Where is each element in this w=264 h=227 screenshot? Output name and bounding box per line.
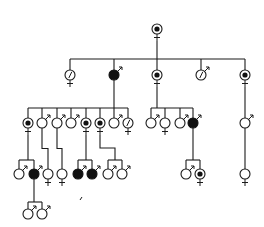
pedigree-node-female-carrier [23,118,33,135]
male-symbol-icon [197,115,202,120]
pedigree-node-female-carrier [152,70,162,87]
male-symbol-icon [23,166,28,171]
pedigree-node-male-unaffected [240,115,253,128]
pedigree-node-female-marked [65,70,75,87]
pedigree-node-male-unaffected [23,206,36,219]
carrier-dot-icon [197,171,202,176]
carrier-dot-icon [154,26,159,31]
male-symbol-icon [32,206,37,211]
pedigree-nodes [14,24,253,219]
male-symbol-icon [112,166,117,171]
male-symbol-icon [126,166,131,171]
open-circle-icon [160,118,170,128]
pedigree-node-female-unaffected [240,169,250,186]
pedigree-node-male-unaffected [109,115,122,128]
male-symbol-icon [82,166,87,171]
male-symbol-icon [190,166,195,171]
male-symbol-icon [38,166,43,171]
descent-line [42,128,48,169]
pedigree-node-male-unaffected [37,115,50,128]
pedigree-diagram [0,0,264,227]
pedigree-node-female-unaffected [57,169,67,186]
pedigree-node-male-affected [73,166,86,179]
pedigree-node-female-carrier [195,169,205,186]
male-symbol-icon [249,115,254,120]
pedigree-node-male-marked [196,67,209,80]
pedigree-node-male-unaffected [146,115,159,128]
pedigree-node-male-affected [109,67,122,80]
male-symbol-icon [155,115,160,120]
pedigree-node-male-affected [188,115,201,128]
carrier-dot-icon [83,120,88,125]
open-circle-icon [240,169,250,179]
male-symbol-icon [75,115,80,120]
carrier-dot-icon [242,72,247,77]
male-symbol-icon [118,67,123,72]
male-symbol-icon [46,206,51,211]
pedigree-node-female-unaffected [160,118,170,135]
pedigree-node-male-unaffected [175,115,188,128]
descent-line [57,128,62,169]
pedigree-node-male-unaffected [103,166,116,179]
pedigree-node-male-unaffected [117,166,130,179]
pedigree-node-male-unaffected [52,115,65,128]
carrier-dot-icon [154,72,159,77]
stray-marks [80,197,82,200]
male-symbol-icon [46,115,51,120]
pedigree-node-female-carrier [152,24,162,41]
male-symbol-icon [61,115,66,120]
pedigree-node-female-carrier [81,118,91,135]
open-circle-icon [57,169,67,179]
pedigree-node-female-marked [123,118,133,135]
male-symbol-icon [96,166,101,171]
carrier-dot-icon [97,120,102,125]
male-symbol-icon [184,115,189,120]
pedigree-node-male-unaffected [37,206,50,219]
pedigree-node-female-carrier [240,70,250,87]
pedigree-node-male-unaffected [181,166,194,179]
pedigree-node-male-affected [87,166,100,179]
pedigree-node-male-affected [29,166,42,179]
carrier-dot-icon [25,120,30,125]
pedigree-node-male-unaffected [66,115,79,128]
male-symbol-icon [118,115,123,120]
pedigree-node-female-unaffected [43,169,53,186]
stray-mark [80,197,82,200]
pedigree-node-female-carrier [95,118,105,135]
male-symbol-icon [205,67,210,72]
descent-line [100,135,115,160]
open-circle-icon [43,169,53,179]
pedigree-node-male-unaffected [14,166,27,179]
